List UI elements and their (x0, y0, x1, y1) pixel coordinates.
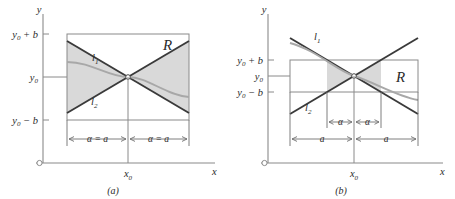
y-axis-label-b: y (261, 4, 267, 15)
x-tick-label-b: x0 (349, 168, 359, 182)
dimension-label-outer-left-b: a (320, 134, 325, 144)
region-label-R-a: R (162, 37, 172, 53)
origin-marker-a (37, 160, 42, 165)
x-axis-label-b: x (439, 166, 445, 177)
y-axis-label-a: y (36, 4, 42, 15)
wedge-right-a (128, 41, 189, 113)
region-label-R-b: R (395, 69, 405, 85)
y-tick-label-mid-b: y0 (254, 71, 264, 85)
dimension-label-right-a: α = a (148, 134, 169, 144)
panel-a: y x y0 + b y0 y0 − b (0, 0, 227, 199)
y-tick-label-mid-a: y0 (29, 72, 39, 86)
wedge-right-b (354, 60, 381, 92)
x-axis-label-a: x (211, 166, 217, 177)
x-tick-label-a: x0 (123, 168, 133, 182)
panel-b: y x y0 + b y0 y0 − b (228, 0, 455, 199)
panel-a-svg: y x y0 + b y0 y0 − b (0, 0, 227, 199)
y-tick-label-lower-a: y0 − b (11, 115, 38, 129)
dimension-label-outer-right-b: a (384, 134, 389, 144)
y-tick-label-lower-b: y0 − b (236, 87, 263, 101)
y-tick-label-upper-a: y0 + b (11, 29, 38, 43)
line-label-l2-a: l2 (91, 96, 98, 110)
y-tick-label-upper-b: y0 + b (236, 55, 263, 69)
figure-root: y x y0 + b y0 y0 − b (0, 0, 455, 199)
dimension-label-left-a: α = a (87, 134, 108, 144)
line-label-l1-b: l1 (314, 31, 320, 45)
panel-b-svg: y x y0 + b y0 y0 − b (228, 0, 455, 199)
wedge-left-a (67, 41, 128, 113)
caption-b: (b) (335, 185, 347, 197)
origin-marker-b (262, 160, 267, 165)
caption-a: (a) (107, 185, 119, 197)
